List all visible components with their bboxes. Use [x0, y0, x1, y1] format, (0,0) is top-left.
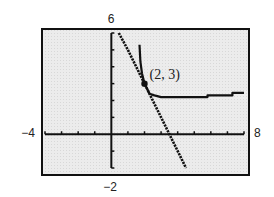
- point-marker: [141, 80, 147, 86]
- ymax-label: 6: [108, 12, 115, 26]
- ymin-label: −2: [103, 180, 117, 194]
- xmin-label: −4: [21, 126, 35, 140]
- xmax-label: 8: [254, 126, 261, 140]
- plot-window: [42, 29, 249, 175]
- point-label: (2, 3): [150, 67, 181, 83]
- graph-chart: 6 −2 −4 8 (2, 3): [0, 0, 274, 197]
